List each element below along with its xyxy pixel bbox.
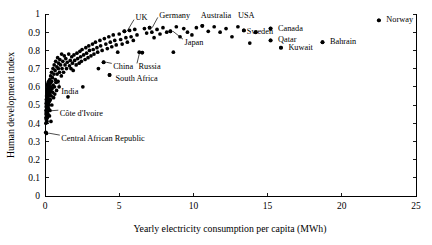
data-point bbox=[224, 27, 228, 31]
data-point bbox=[131, 39, 135, 43]
country-label-central-african-republic: Central African Republic bbox=[61, 134, 145, 143]
annotated-data-point bbox=[45, 131, 49, 135]
data-point bbox=[48, 114, 52, 118]
annotated-data-point bbox=[377, 18, 381, 22]
data-point bbox=[206, 29, 210, 33]
data-point bbox=[161, 26, 165, 30]
data-point bbox=[59, 63, 63, 67]
data-point bbox=[71, 69, 75, 73]
data-point bbox=[111, 33, 115, 37]
data-point bbox=[85, 51, 89, 55]
data-point bbox=[53, 92, 57, 96]
x-tick-label: 20 bbox=[337, 201, 347, 211]
country-label-germany: Germany bbox=[159, 11, 191, 20]
country-label-bahrain: Bahrain bbox=[330, 37, 357, 46]
country-label-sweden: Sweden bbox=[247, 27, 274, 36]
y-tick-label: 0.6 bbox=[28, 82, 40, 92]
data-point bbox=[182, 27, 186, 31]
annotations-layer: UKGermanyAustraliaUSACanadaNorwaySwedenQ… bbox=[45, 11, 414, 143]
data-point bbox=[129, 35, 133, 39]
annotated-data-point bbox=[200, 24, 204, 28]
data-point bbox=[165, 30, 169, 34]
y-tick-label: 0.3 bbox=[28, 137, 40, 147]
data-point bbox=[48, 98, 52, 102]
country-label-china: China bbox=[113, 62, 133, 71]
data-point bbox=[105, 47, 109, 51]
annotated-data-point bbox=[54, 80, 58, 84]
annotated-data-point bbox=[148, 26, 152, 30]
data-point bbox=[62, 70, 66, 74]
data-point bbox=[152, 36, 156, 40]
data-point bbox=[172, 50, 176, 54]
y-tick-label: 0.5 bbox=[28, 100, 40, 110]
data-point bbox=[97, 67, 101, 71]
data-point bbox=[114, 43, 118, 47]
y-tick-label: 0.2 bbox=[28, 155, 40, 165]
data-point bbox=[50, 79, 54, 83]
data-point bbox=[81, 85, 85, 89]
country-label-canada: Canada bbox=[278, 24, 303, 33]
data-point bbox=[174, 25, 178, 29]
data-point bbox=[53, 69, 57, 73]
country-label-uk: UK bbox=[136, 13, 148, 22]
data-point bbox=[99, 44, 103, 48]
data-point bbox=[53, 85, 57, 89]
label-leader-line bbox=[173, 31, 183, 39]
data-point bbox=[119, 38, 123, 42]
data-point bbox=[57, 67, 61, 71]
data-point bbox=[61, 59, 65, 63]
data-point bbox=[143, 27, 147, 31]
data-point bbox=[87, 44, 91, 48]
data-point bbox=[59, 74, 63, 78]
y-tick-label: 0.9 bbox=[28, 28, 40, 38]
label-leader-line bbox=[49, 133, 60, 135]
data-point bbox=[124, 36, 128, 40]
data-point bbox=[195, 26, 199, 30]
data-point bbox=[190, 33, 194, 37]
data-point bbox=[116, 50, 120, 54]
data-point bbox=[218, 30, 222, 34]
y-tick-label: 0.1 bbox=[28, 173, 40, 183]
y-tick-label: 0.7 bbox=[28, 64, 40, 74]
data-point bbox=[64, 57, 68, 61]
data-point bbox=[100, 49, 104, 53]
data-point bbox=[113, 39, 117, 43]
annotated-data-point bbox=[46, 109, 50, 113]
data-point bbox=[108, 40, 112, 44]
data-point bbox=[98, 39, 102, 43]
country-label-india: India bbox=[61, 87, 78, 96]
y-tick-label: 1 bbox=[35, 9, 40, 19]
data-point bbox=[120, 42, 124, 46]
country-label-norway: Norway bbox=[386, 15, 414, 24]
data-point bbox=[88, 49, 92, 53]
data-point bbox=[150, 30, 154, 34]
x-tick-label: 0 bbox=[43, 201, 48, 211]
x-axis-title: Yearly electricity consumption per capit… bbox=[134, 223, 327, 235]
data-point bbox=[186, 30, 190, 34]
data-point bbox=[50, 103, 54, 107]
y-tick-label: 0.4 bbox=[28, 119, 40, 129]
data-point bbox=[55, 89, 59, 93]
annotated-data-point bbox=[168, 29, 172, 33]
y-tick-label: 0 bbox=[35, 191, 40, 201]
data-point bbox=[212, 25, 216, 29]
data-point bbox=[91, 48, 95, 52]
annotated-data-point bbox=[140, 51, 144, 55]
label-leader-line bbox=[106, 62, 112, 63]
country-label-kuwait: Kuwait bbox=[288, 43, 313, 52]
data-point bbox=[95, 46, 99, 50]
annotated-data-point bbox=[102, 60, 106, 64]
country-label-south-africa: South Africa bbox=[115, 74, 157, 83]
data-point bbox=[110, 45, 114, 49]
chart-figure: 051015202500.10.20.30.40.50.60.70.80.91 … bbox=[0, 0, 432, 245]
data-point bbox=[67, 52, 71, 56]
data-point bbox=[52, 72, 56, 76]
data-point bbox=[80, 48, 84, 52]
data-point bbox=[236, 25, 240, 29]
data-point bbox=[248, 41, 252, 45]
x-tick-label: 25 bbox=[411, 201, 421, 211]
country-label-australia: Australia bbox=[201, 11, 232, 20]
data-point bbox=[45, 120, 49, 124]
data-point bbox=[80, 59, 84, 63]
annotated-data-point bbox=[108, 73, 112, 77]
